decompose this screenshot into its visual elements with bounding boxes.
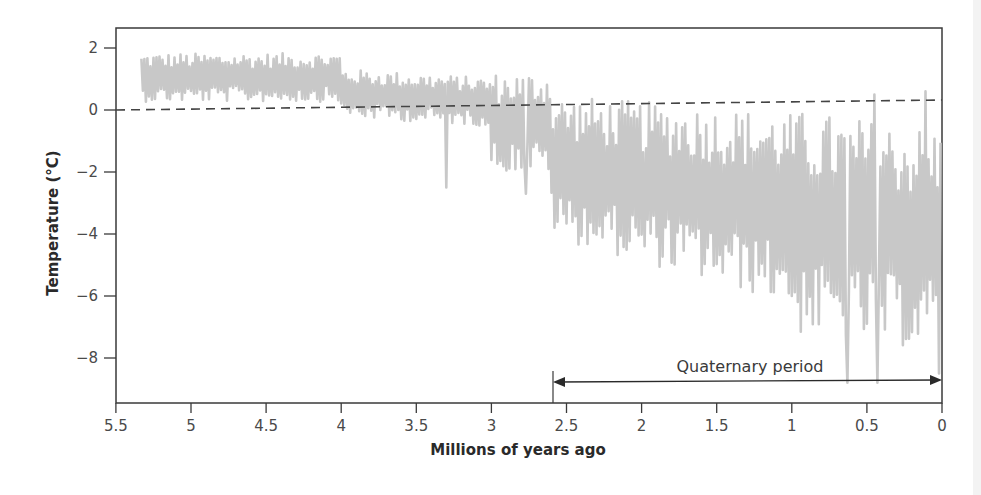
x-tick-label: 4.5 — [254, 417, 278, 435]
x-tick-label: 5 — [186, 417, 196, 435]
x-tick-label: 1.5 — [705, 417, 729, 435]
x-tick-label: 0.5 — [855, 417, 879, 435]
x-tick-label: 1 — [787, 417, 797, 435]
x-tick-label: 4 — [336, 417, 346, 435]
x-tick-label: 3 — [487, 417, 497, 435]
y-axis: 20−2−4−6−8 — [76, 39, 116, 367]
quaternary-annotation: Quaternary period — [553, 357, 942, 403]
x-tick-label: 3.5 — [404, 417, 428, 435]
quaternary-label: Quaternary period — [677, 357, 824, 376]
y-tick-label: −8 — [76, 349, 98, 367]
temperature-series — [141, 53, 940, 383]
page-edge — [973, 0, 981, 495]
y-tick-label: −4 — [76, 225, 98, 243]
x-tick-label: 2.5 — [555, 417, 579, 435]
y-tick-label: 0 — [88, 101, 98, 119]
x-tick-label: 5.5 — [104, 417, 128, 435]
y-tick-label: −6 — [76, 287, 98, 305]
x-axis: 5.554.543.532.521.510.50 — [104, 403, 947, 435]
quaternary-arrow-line — [557, 380, 938, 382]
x-tick-label: 0 — [937, 417, 947, 435]
y-axis-title: Temperature (°C) — [44, 150, 62, 295]
x-axis-title: Millions of years ago — [430, 441, 605, 459]
temperature-line — [141, 53, 940, 383]
temperature-chart: 20−2−4−6−8 5.554.543.532.521.510.50 Mill… — [0, 0, 981, 495]
x-tick-label: 2 — [637, 417, 647, 435]
arrow-right-head-icon — [930, 375, 942, 385]
arrow-left-head-icon — [553, 377, 565, 387]
y-tick-label: −2 — [76, 163, 98, 181]
y-tick-label: 2 — [88, 39, 98, 57]
